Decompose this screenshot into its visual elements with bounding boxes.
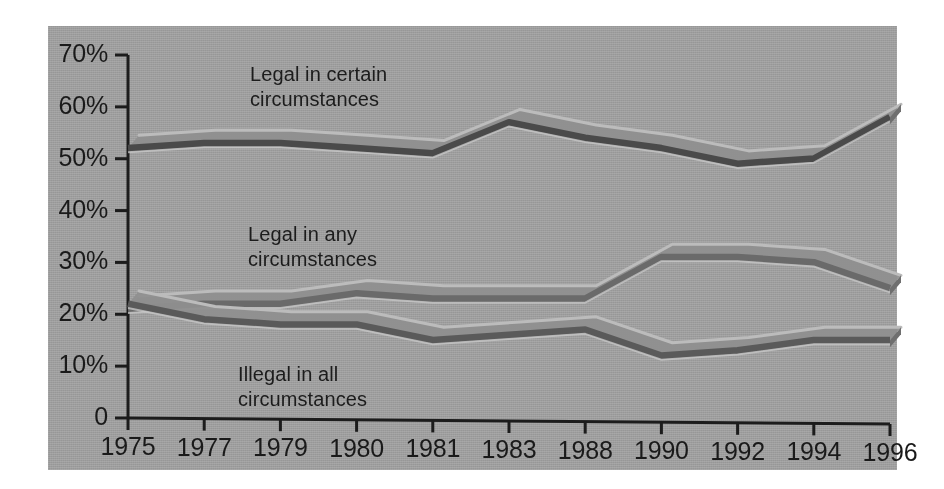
y-axis-tick-label: 0 [94,402,108,431]
y-axis-tick-label: 20% [59,298,108,327]
y-axis-tick-label: 10% [59,350,108,379]
series-line [128,257,890,309]
line-chart-plot [0,0,944,489]
y-axis-tick-label: 60% [59,91,108,120]
chart-page: 70%60%50%40%30%20%10%0 19751977197919801… [0,0,944,489]
data-series [128,104,901,360]
y-axis-tick-label: 50% [59,143,108,172]
y-axis-tick-label: 70% [59,39,108,68]
series-label-3: Illegal in all circumstances [238,362,367,412]
series-label-2: Legal in any circumstances [248,222,377,272]
series-label-1: Legal in certain circumstances [250,62,387,112]
x-axis-tick-label: 1996 [845,438,935,467]
y-axis-tick-label: 40% [59,195,108,224]
y-axis-tick-label: 30% [59,246,108,275]
